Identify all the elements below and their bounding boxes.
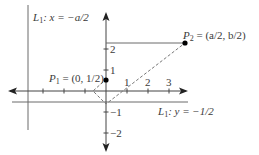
y-tick-label: 2 (110, 43, 116, 55)
point-p1 (103, 77, 108, 82)
y-tick-label: 1 (110, 64, 116, 76)
dashed-reflection-path (93, 43, 185, 104)
horizontal-line-label: L1: y = −1/2 (157, 105, 214, 119)
p2-label: P2 = (a/2, b/2) (182, 29, 246, 43)
diagram-canvas: 1 2 3 2 1 −1 −2 L1: x = −a/2 L1: y = −1/… (0, 0, 259, 155)
p1-label: P1 = (0, 1/2) (48, 72, 104, 86)
coordinate-diagram: 1 2 3 2 1 −1 −2 L1: x = −a/2 L1: y = −1/… (0, 0, 259, 155)
x-tick-label: 2 (145, 76, 151, 88)
y-tick-label: −1 (110, 106, 122, 118)
point-p2 (182, 40, 187, 45)
vertical-line-label: L1: x = −a/2 (32, 11, 89, 25)
x-tick-label: 3 (166, 76, 172, 88)
y-tick-label: −2 (110, 127, 122, 139)
